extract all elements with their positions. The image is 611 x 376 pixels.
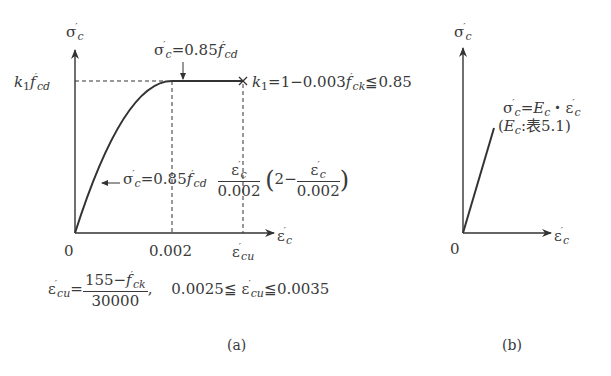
parabolic-curve — [75, 81, 172, 233]
curve-formula: σ′c=0.85f′cd ε′c 0.002 (2− ε′c 0.002 ) — [123, 160, 349, 199]
caption-b: (b) — [502, 338, 522, 352]
x-axis-label-a: ε′c — [277, 226, 292, 246]
x-tick-0: 0 — [64, 244, 74, 259]
linear-formula: σ′c=Ec・ε′c — [503, 98, 581, 118]
linear-elastic-line — [463, 128, 494, 233]
y-axis-label-b: σ′c — [454, 22, 472, 42]
y-axis-label-a: σ′c — [66, 22, 84, 42]
ecu-formula: ε′cu= 155−f′ck 30000 , 0.0025≦ ε′cu≦0.00… — [48, 270, 329, 309]
plateau-label: σ′c=0.85f′cd — [154, 40, 238, 60]
panel-b-axes — [463, 48, 551, 233]
caption-a: (a) — [227, 338, 246, 352]
x-tick-ecu: ε′cu — [232, 242, 254, 262]
x-axis-label-b: ε′c — [554, 226, 569, 246]
k1fcd-label: k1f′cd — [14, 72, 50, 92]
strain-ratio-fraction-2: ε′c 0.002 — [297, 160, 340, 199]
ecu-fraction: 155−f′ck 30000 — [83, 270, 148, 309]
ec-table-note: (Ec:表5.1) — [498, 119, 571, 136]
panel-a-axes — [75, 50, 274, 233]
panel-a-guides — [75, 81, 243, 233]
x-tick-0002: 0.002 — [149, 244, 192, 259]
k1-formula: k1=1−0.003f′ck≦0.85 — [252, 72, 412, 92]
strain-ratio-fraction-1: ε′c 0.002 — [218, 160, 261, 199]
origin-label-b: 0 — [450, 242, 460, 257]
